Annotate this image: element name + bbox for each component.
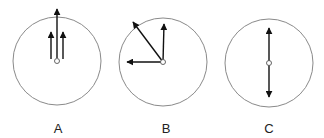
panel-b (119, 18, 207, 106)
panel-label-b: B (162, 122, 171, 135)
vector-arrow-icon (133, 22, 163, 62)
center-point-icon (55, 59, 60, 64)
panel-label-c: C (264, 122, 273, 135)
panel-c (225, 19, 313, 107)
panel-a (13, 9, 101, 105)
center-point-icon (161, 60, 166, 65)
vector-arrow-icon (163, 24, 164, 62)
panel-label-a: A (54, 122, 63, 135)
vector-diagram: A B C (0, 0, 324, 138)
diagram-canvas (0, 0, 324, 138)
center-point-icon (267, 61, 272, 66)
